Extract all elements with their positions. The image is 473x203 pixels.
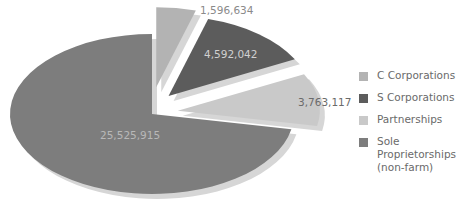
data-label: 1,596,634 <box>200 4 254 16</box>
legend-label: Sole Proprietorships (non-farm) <box>377 135 473 174</box>
data-label: 3,763,117 <box>298 96 351 108</box>
legend-swatch <box>359 116 368 125</box>
legend-item-s-corporations: S Corporations <box>359 91 473 113</box>
legend-swatch <box>359 94 368 103</box>
legend-label: Partnerships <box>377 113 442 126</box>
legend-item-c-corporations: C Corporations <box>359 69 473 91</box>
legend-item-partnerships: Partnerships <box>359 113 473 135</box>
data-label: 25,525,915 <box>100 129 160 141</box>
legend-swatch <box>359 138 368 147</box>
legend-label: C Corporations <box>377 69 455 82</box>
legend-label: S Corporations <box>377 91 455 104</box>
legend-swatch <box>359 72 368 81</box>
data-label: 4,592,042 <box>204 48 257 60</box>
legend-item-sole-proprietorships: Sole Proprietorships (non-farm) <box>359 135 473 157</box>
legend: C Corporations S Corporations Partnershi… <box>359 69 473 157</box>
